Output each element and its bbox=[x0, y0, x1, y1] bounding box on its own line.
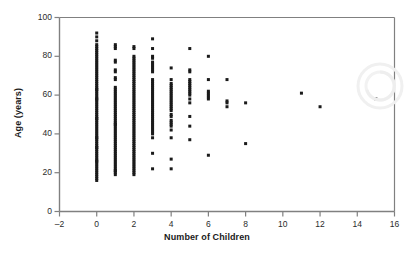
data-point bbox=[188, 115, 191, 118]
data-point bbox=[188, 47, 191, 50]
y-tick-label: 0 bbox=[20, 206, 52, 216]
data-point bbox=[188, 138, 191, 141]
data-point bbox=[95, 136, 98, 139]
y-tick-label: 100 bbox=[20, 12, 52, 22]
x-tick-label: 12 bbox=[300, 219, 340, 229]
data-point bbox=[170, 66, 173, 69]
data-point bbox=[151, 57, 154, 60]
data-point bbox=[151, 152, 154, 155]
data-point bbox=[170, 125, 173, 128]
data-point bbox=[170, 136, 173, 139]
data-point bbox=[114, 47, 117, 50]
data-point bbox=[114, 173, 117, 176]
data-point bbox=[151, 132, 154, 135]
plot-frame bbox=[60, 18, 395, 212]
axis-ticks bbox=[55, 18, 395, 217]
x-tick-label: 16 bbox=[375, 219, 414, 229]
data-point bbox=[151, 47, 154, 50]
data-point bbox=[95, 39, 98, 42]
data-point bbox=[95, 88, 98, 91]
data-point bbox=[114, 123, 117, 126]
data-point bbox=[226, 78, 229, 81]
data-point bbox=[151, 167, 154, 170]
data-point bbox=[207, 154, 210, 157]
data-point bbox=[95, 97, 98, 100]
x-tick-label: 0 bbox=[77, 219, 117, 229]
x-tick-label: 6 bbox=[188, 219, 228, 229]
data-point bbox=[207, 97, 210, 100]
data-point bbox=[188, 70, 191, 73]
y-axis-title-wrapper: Age (years) bbox=[7, 53, 25, 173]
y-axis-title: Age (years) bbox=[13, 88, 23, 138]
data-point bbox=[132, 173, 135, 176]
data-point bbox=[170, 158, 173, 161]
data-point bbox=[151, 37, 154, 40]
scatter-plot-figure: 020406080100–20246810121416 Number of Ch… bbox=[0, 0, 414, 259]
x-tick-label: 2 bbox=[114, 219, 154, 229]
data-point bbox=[114, 61, 117, 64]
data-point bbox=[188, 101, 191, 104]
x-tick-label: 14 bbox=[337, 219, 377, 229]
data-point bbox=[95, 179, 98, 182]
data-point bbox=[95, 146, 98, 149]
x-tick-label: 4 bbox=[151, 219, 191, 229]
data-point bbox=[300, 92, 303, 95]
data-point bbox=[114, 78, 117, 81]
data-point bbox=[170, 115, 173, 118]
data-point bbox=[226, 99, 229, 102]
data-point bbox=[95, 32, 98, 35]
data-point bbox=[95, 117, 98, 120]
data-point bbox=[95, 160, 98, 163]
data-point bbox=[170, 167, 173, 170]
data-point bbox=[207, 55, 210, 58]
data-point bbox=[207, 78, 210, 81]
data-point bbox=[151, 136, 154, 139]
data-point bbox=[114, 96, 117, 99]
data-point bbox=[132, 47, 135, 50]
data-point bbox=[226, 105, 229, 108]
x-tick-label: 10 bbox=[263, 219, 303, 229]
data-point bbox=[170, 109, 173, 112]
data-point bbox=[188, 97, 191, 100]
data-point bbox=[151, 70, 154, 73]
data-points bbox=[95, 32, 377, 182]
data-point bbox=[188, 94, 191, 97]
data-point bbox=[244, 142, 247, 145]
data-point bbox=[170, 129, 173, 132]
data-point bbox=[188, 125, 191, 128]
x-tick-label: –2 bbox=[40, 219, 80, 229]
data-point bbox=[319, 105, 322, 108]
data-point bbox=[114, 70, 117, 73]
data-point bbox=[244, 101, 247, 104]
data-point bbox=[374, 97, 377, 100]
x-tick-label: 8 bbox=[226, 219, 266, 229]
x-axis-title: Number of Children bbox=[0, 232, 414, 242]
data-point bbox=[95, 35, 98, 38]
data-point bbox=[170, 78, 173, 81]
